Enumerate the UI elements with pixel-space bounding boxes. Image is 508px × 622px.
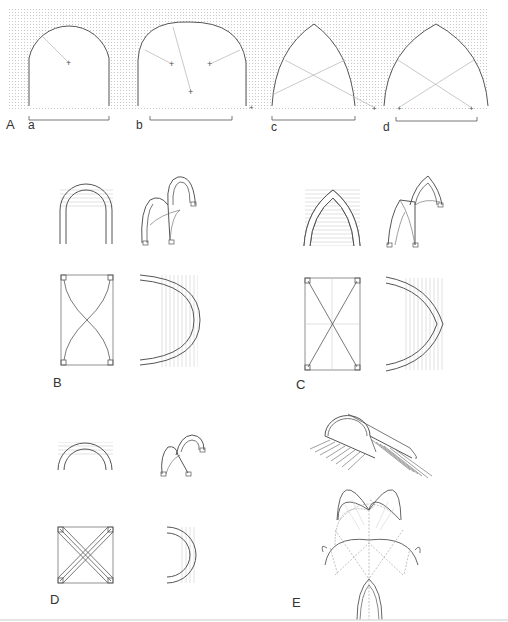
panel-label-d: D <box>50 592 59 607</box>
svg-text:+: + <box>207 59 212 69</box>
panel-label-a: A <box>6 117 15 132</box>
panel-c-pointed-vault <box>304 176 443 371</box>
panel-label-e: E <box>292 595 301 610</box>
sublabel-c: c <box>271 120 277 134</box>
svg-text:+: + <box>169 59 174 69</box>
svg-text:+: + <box>66 58 71 68</box>
svg-text:+: + <box>249 103 254 112</box>
svg-text:+: + <box>469 104 474 113</box>
sublabel-b: b <box>136 118 143 132</box>
panel-label-c: C <box>296 377 305 392</box>
vault-diagram: + + + + + + + + <box>0 0 508 622</box>
panel-label-b: B <box>53 375 62 390</box>
svg-text:+: + <box>188 87 193 97</box>
panel-a-arches: + + + + + + + + <box>8 8 488 121</box>
sublabel-a: a <box>28 118 35 132</box>
svg-text:+: + <box>397 104 402 113</box>
panel-b-round-vault <box>60 177 200 367</box>
sublabel-d: d <box>383 120 390 134</box>
svg-text:+: + <box>372 104 377 113</box>
panel-d-square-vault <box>58 435 205 583</box>
panel-e-vault-construction <box>310 414 432 620</box>
